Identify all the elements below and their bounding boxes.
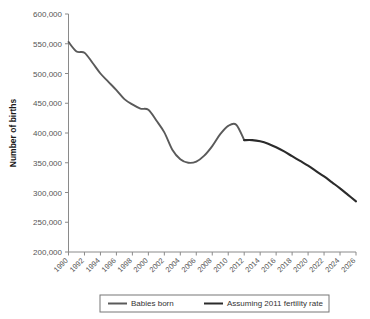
y-axis: 200,000250,000300,000350,000400,000450,0… [33, 10, 68, 257]
x-tick-label: 1992 [68, 256, 86, 274]
births-line-chart: 200,000250,000300,000350,000400,000450,0… [0, 0, 370, 319]
y-tick-label: 500,000 [33, 70, 62, 79]
x-tick-label: 2012 [227, 256, 245, 274]
y-tick-label: 250,000 [33, 218, 62, 227]
y-axis-title-text: Number of births [8, 98, 18, 167]
x-tick-label: 2024 [323, 256, 341, 274]
x-tick-label: 2026 [339, 256, 357, 274]
x-tick-label: 2014 [243, 256, 261, 274]
y-axis-title: Number of births [8, 98, 18, 167]
x-tick-label: 2004 [164, 256, 182, 274]
x-tick-label: 2018 [275, 256, 293, 274]
series-line-projection [244, 140, 356, 201]
chart-figure: 200,000250,000300,000350,000400,000450,0… [0, 0, 370, 319]
series-line-babies-born [69, 42, 245, 163]
x-tick-label: 2020 [291, 256, 309, 274]
x-tick-label: 1996 [100, 256, 118, 274]
x-tick-label: 2016 [259, 256, 277, 274]
x-tick-label: 2010 [211, 256, 229, 274]
chart-canvas: 200,000250,000300,000350,000400,000450,0… [0, 0, 370, 319]
y-tick-label: 450,000 [33, 99, 62, 108]
y-tick-label: 600,000 [33, 10, 62, 19]
series-layer [69, 42, 357, 201]
x-tick-label: 2008 [196, 256, 214, 274]
legend-label-1: Assuming 2011 fertility rate [227, 299, 323, 308]
y-tick-label: 350,000 [33, 159, 62, 168]
x-tick-label: 1998 [116, 256, 134, 274]
y-tick-label: 400,000 [33, 129, 62, 138]
x-tick-label: 1994 [84, 256, 102, 274]
chart-legend: Babies bornAssuming 2011 fertility rate [100, 295, 329, 312]
x-tick-label: 2000 [132, 256, 150, 274]
x-tick-label: 2006 [180, 256, 198, 274]
y-tick-label: 550,000 [33, 40, 62, 49]
x-tick-label: 2002 [148, 256, 166, 274]
y-tick-label: 300,000 [33, 189, 62, 198]
x-tick-label: 1990 [52, 256, 70, 274]
y-tick-label: 200,000 [33, 248, 62, 257]
x-axis: 1990199219941996199820002002200420062008… [52, 252, 358, 274]
x-tick-label: 2022 [307, 256, 325, 274]
legend-label-0: Babies born [131, 299, 174, 308]
